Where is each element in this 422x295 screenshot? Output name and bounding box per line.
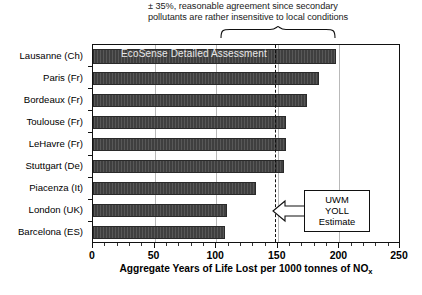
x-axis-label-100: 100 — [206, 249, 224, 261]
x-axis-minor-tick — [228, 243, 229, 246]
x-axis-tick-200 — [338, 243, 339, 248]
x-axis-label-200: 200 — [330, 249, 348, 261]
callout-arrow-icon — [272, 198, 306, 224]
callout-line-1: UWM — [307, 194, 367, 205]
y-axis-label-london: London (UK) — [29, 199, 83, 221]
x-axis-minor-tick — [191, 243, 192, 246]
table-row — [93, 222, 225, 244]
y-axis-label-paris: Paris (Fr) — [43, 66, 83, 88]
bar-london[interactable] — [93, 204, 227, 217]
x-axis-minor-tick — [314, 243, 315, 246]
x-axis-tick-100 — [215, 243, 216, 248]
x-axis-minor-tick — [117, 243, 118, 246]
bar-toulouse[interactable] — [93, 116, 286, 129]
y-axis-label-lausanne: Lausanne (Ch) — [20, 44, 83, 66]
callout-line-2: YOLL — [307, 205, 367, 216]
bar-piacenza[interactable] — [93, 182, 256, 195]
x-axis-minor-tick — [375, 243, 376, 246]
bar-lehavre[interactable] — [93, 138, 286, 151]
x-axis-title-main: Aggregate Years of Life Lost per 1000 to… — [119, 263, 368, 274]
x-axis-label-150: 150 — [268, 249, 286, 261]
x-axis-label-0: 0 — [89, 249, 95, 261]
callout-box-uwm-yoll: UWM YOLL Estimate — [304, 190, 370, 232]
y-axis-labels: Lausanne (Ch) Paris (Fr) Bordeaux (Fr) T… — [0, 44, 88, 243]
table-row — [93, 133, 286, 155]
x-axis-minor-tick — [252, 243, 253, 246]
x-axis-tick-50 — [154, 243, 155, 248]
x-axis-minor-tick — [363, 243, 364, 246]
y-axis-label-barcelona: Barcelona (ES) — [18, 221, 83, 243]
callout-line-3: Estimate — [307, 216, 367, 227]
y-axis-label-stuttgart: Stuttgart (De) — [25, 155, 83, 177]
bar-paris[interactable] — [93, 72, 319, 85]
x-axis-minor-tick — [388, 243, 389, 246]
table-row — [93, 178, 256, 200]
x-axis-minor-tick — [265, 243, 266, 246]
bar-lausanne[interactable] — [93, 49, 336, 64]
x-axis-minor-tick — [141, 243, 142, 246]
y-axis-label-piacenza: Piacenza (It) — [29, 177, 83, 199]
x-axis-tick-150 — [277, 243, 278, 248]
curly-brace-icon — [220, 26, 336, 39]
x-axis-tick-0 — [92, 243, 93, 248]
x-axis-minor-tick — [104, 243, 105, 246]
x-axis-label-50: 50 — [148, 249, 160, 261]
y-axis-label-bordeaux: Bordeaux (Fr) — [24, 88, 83, 110]
bar-stuttgart[interactable] — [93, 160, 284, 173]
x-axis-minor-tick — [326, 243, 327, 246]
x-axis-minor-tick — [289, 243, 290, 246]
x-axis-minor-tick — [351, 243, 352, 246]
x-axis-label-250: 250 — [390, 249, 408, 261]
bar-barcelona[interactable] — [93, 226, 225, 239]
x-axis-minor-tick — [178, 243, 179, 246]
y-axis-label-toulouse: Toulouse (Fr) — [26, 110, 83, 132]
x-axis-title: Aggregate Years of Life Lost per 1000 to… — [92, 263, 400, 274]
y-axis-label-lehavre: LeHavre (Fr) — [29, 132, 83, 154]
x-axis-minor-tick — [129, 243, 130, 246]
x-axis-minor-tick — [301, 243, 302, 246]
table-row — [93, 45, 336, 67]
x-axis-tick-250 — [399, 243, 400, 248]
top-annotation-text: ± 35%, reasonable agreement since second… — [148, 1, 416, 24]
x-axis-minor-tick — [240, 243, 241, 246]
table-row — [93, 200, 227, 222]
x-axis-minor-tick — [166, 243, 167, 246]
table-row — [93, 67, 319, 89]
x-axis-minor-tick — [203, 243, 204, 246]
top-annotation-line-2: pollutants are rather insensitive to loc… — [148, 12, 416, 23]
table-row — [93, 111, 286, 133]
x-axis-title-subscript: x — [368, 267, 372, 276]
top-annotation-line-1: ± 35%, reasonable agreement since second… — [148, 1, 416, 12]
table-row — [93, 156, 284, 178]
